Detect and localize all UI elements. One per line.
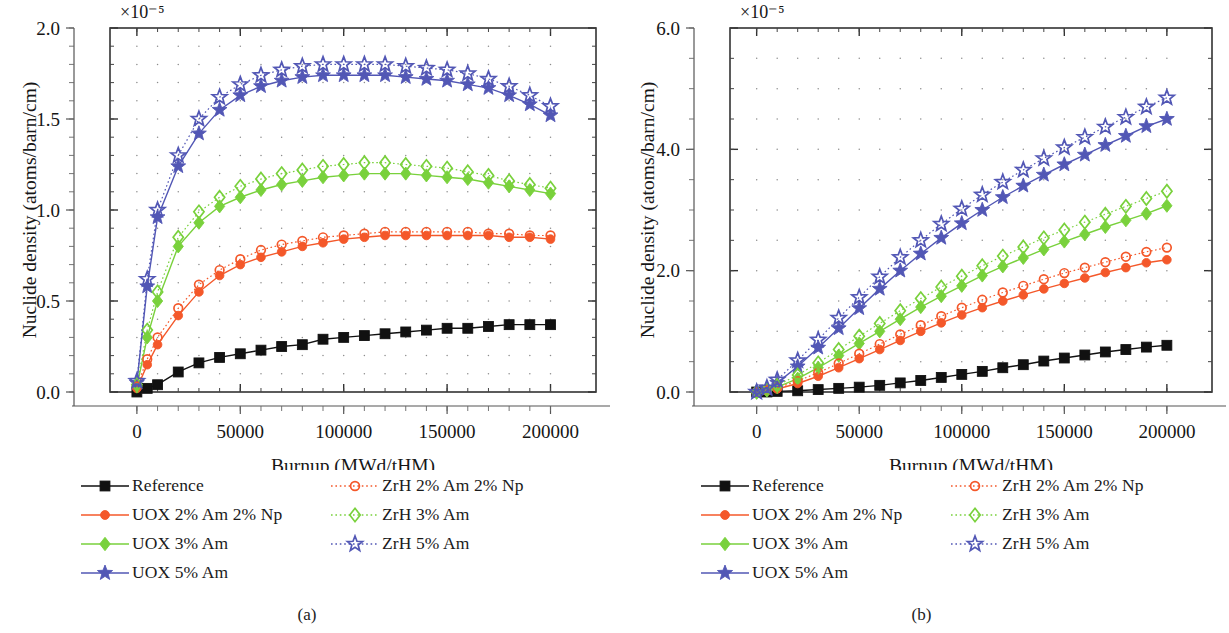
y-tick-label: 2.0 (36, 18, 60, 39)
panel-a-caption: (a) (0, 605, 614, 625)
data-marker (359, 331, 369, 341)
legend-marker-uox-2-am-2-np-icon (698, 505, 752, 525)
data-marker (484, 229, 493, 238)
data-marker (1122, 252, 1131, 261)
data-marker (720, 537, 730, 550)
axis-ticks (110, 28, 596, 392)
data-marker (895, 304, 905, 317)
legend-label-reference: Reference (132, 475, 204, 496)
data-marker (1101, 268, 1110, 277)
data-marker (875, 340, 884, 349)
data-marker (274, 62, 289, 76)
legend-label-zrh-5-am: ZrH 5% Am (382, 533, 469, 554)
data-marker (957, 303, 966, 312)
data-marker (1081, 274, 1090, 283)
data-marker (522, 88, 537, 102)
data-marker (1162, 185, 1172, 198)
data-marker (274, 73, 289, 87)
data-marker (1139, 99, 1154, 113)
data-marker (504, 320, 514, 330)
y-axis-title: Nuclide density (atoms/barn/cm) (19, 82, 41, 339)
data-marker (1098, 119, 1113, 133)
data-marker (1039, 231, 1049, 244)
data-marker (1162, 340, 1172, 350)
legend-marker-uox-3-am-icon (698, 534, 752, 554)
data-marker (1159, 111, 1174, 125)
legend-label-uox-3-am: UOX 3% Am (752, 533, 848, 554)
data-marker (875, 380, 885, 390)
legend-item-zrh-3-am[interactable]: ZrH 3% Am (328, 501, 578, 528)
plot-frame (110, 28, 596, 392)
data-marker (378, 68, 393, 82)
panel-b-caption: (b) (614, 605, 1229, 625)
legend-marker-zrh-2-am-2-np-icon (948, 476, 1002, 496)
data-marker (1139, 118, 1154, 132)
data-marker (1036, 151, 1051, 165)
data-marker (1141, 192, 1151, 205)
y-tick-label: 2.0 (656, 260, 680, 281)
legend-item-uox-3-am[interactable]: UOX 3% Am (78, 530, 328, 557)
data-marker (171, 148, 186, 162)
legend-label-zrh-2-am-2-np: ZrH 2% Am 2% Np (382, 475, 523, 496)
legend-label-zrh-2-am-2-np: ZrH 2% Am 2% Np (1002, 475, 1143, 496)
legend-item-uox-3-am[interactable]: UOX 3% Am (698, 530, 948, 557)
data-marker (1039, 356, 1049, 366)
y-axis-ticks (686, 28, 694, 392)
x-tick-label: 100000 (933, 421, 990, 442)
legend-item-zrh-2-am-2-np[interactable]: ZrH 2% Am 2% Np (948, 472, 1198, 499)
legend-item-zrh-5-am[interactable]: ZrH 5% Am (948, 530, 1198, 557)
data-marker (1018, 240, 1028, 253)
data-marker (440, 73, 455, 87)
legend-label-uox-3-am: UOX 3% Am (132, 533, 228, 554)
data-marker (378, 57, 393, 71)
legend-marker-uox-5-am-icon (78, 563, 132, 583)
data-marker (359, 156, 369, 169)
legend-item-zrh-2-am-2-np[interactable]: ZrH 2% Am 2% Np (328, 472, 578, 499)
legend-item-reference[interactable]: Reference (78, 472, 328, 499)
data-marker (1163, 255, 1172, 264)
data-marker (194, 358, 204, 368)
data-marker (1121, 345, 1131, 355)
legend-item-zrh-3-am[interactable]: ZrH 3% Am (948, 501, 1198, 528)
legend-item-uox-5-am[interactable]: UOX 5% Am (78, 559, 328, 586)
panel-b: ×10⁻⁵0.02.04.06.005000010000015000020000… (614, 0, 1229, 633)
data-marker (235, 349, 245, 359)
data-marker (484, 322, 494, 332)
data-marker (143, 355, 152, 364)
data-marker (460, 77, 475, 91)
legend-marker-uox-3-am-icon (78, 534, 132, 554)
data-marker (1057, 140, 1072, 154)
data-marker (421, 325, 431, 335)
data-marker (350, 508, 360, 521)
data-marker (235, 180, 245, 193)
data-marker (813, 385, 823, 395)
data-marker (916, 321, 925, 330)
legend-item-uox-5-am[interactable]: UOX 5% Am (698, 559, 948, 586)
data-marker (1081, 263, 1090, 272)
data-marker (1159, 90, 1174, 104)
data-marker (970, 508, 980, 521)
data-marker (298, 237, 307, 246)
data-marker (1080, 350, 1090, 360)
legend-marker-zrh-3-am-icon (948, 505, 1002, 525)
data-marker (463, 228, 472, 237)
legend-item-uox-2-am-2-np[interactable]: UOX 2% Am 2% Np (698, 501, 948, 528)
data-marker (443, 228, 452, 237)
data-marker (192, 111, 207, 125)
data-marker (855, 349, 864, 358)
baseline-ticks (137, 406, 551, 414)
legend-item-reference[interactable]: Reference (698, 472, 948, 499)
data-marker (318, 334, 328, 344)
legend-item-zrh-5-am[interactable]: ZrH 5% Am (328, 530, 578, 557)
data-marker (957, 369, 967, 379)
figure-container: ×10⁻⁵0.00.51.01.52.005000010000015000020… (0, 0, 1229, 633)
x-tick-label: 50000 (217, 421, 265, 442)
legend-label-zrh-5-am: ZrH 5% Am (1002, 533, 1089, 554)
panel-a: ×10⁻⁵0.00.51.01.52.005000010000015000020… (0, 0, 614, 633)
data-marker (546, 231, 555, 240)
data-marker (214, 191, 224, 204)
data-marker (1039, 285, 1048, 294)
data-marker (254, 78, 269, 92)
legend-marker-zrh-2-am-2-np-icon (328, 476, 382, 496)
legend-item-uox-2-am-2-np[interactable]: UOX 2% Am 2% Np (78, 501, 328, 528)
